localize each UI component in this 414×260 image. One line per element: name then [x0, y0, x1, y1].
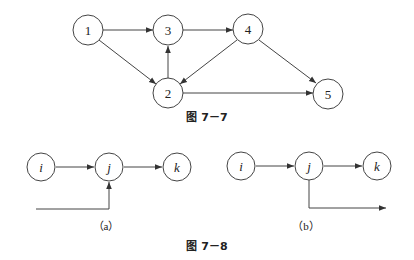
node-1-label: 1	[85, 23, 92, 38]
diagram-canvas: 1 2 3 4 5 图 7－7 i j k （a）	[0, 0, 414, 260]
node-b-i-label: i	[239, 159, 243, 174]
figure-7-8b: i j k （b）	[227, 152, 391, 232]
node-a-i-label: i	[39, 160, 43, 175]
node-3: 3	[153, 15, 183, 45]
node-2-label: 2	[165, 86, 172, 101]
edge-b-j-external	[309, 180, 386, 208]
node-a-j: j	[95, 153, 123, 181]
node-1: 1	[73, 15, 103, 45]
figure-7-8-caption: 图 7－8	[186, 240, 227, 253]
edge-4-2	[180, 40, 237, 84]
edge-1-2	[99, 40, 156, 84]
figure-7-8a-label: （a）	[93, 220, 120, 232]
node-4: 4	[233, 14, 263, 44]
node-a-i: i	[27, 153, 55, 181]
figure-7-7-caption: 图 7－7	[186, 111, 227, 124]
node-5: 5	[313, 79, 343, 109]
node-b-k: k	[363, 152, 391, 180]
node-5-label: 5	[325, 87, 332, 102]
node-b-j: j	[295, 152, 323, 180]
node-b-i: i	[227, 152, 255, 180]
node-2: 2	[153, 78, 183, 108]
node-b-k-label: k	[374, 159, 380, 174]
node-a-k-label: k	[174, 160, 180, 175]
node-3-label: 3	[165, 23, 172, 38]
edge-4-5	[259, 40, 316, 83]
node-a-k: k	[163, 153, 191, 181]
figure-7-8a: i j k （a）	[27, 153, 191, 232]
node-4-label: 4	[245, 22, 252, 37]
figure-7-7-edges	[99, 30, 316, 93]
figure-7-8b-label: （b）	[292, 220, 320, 232]
edge-a-external-j	[36, 182, 109, 209]
